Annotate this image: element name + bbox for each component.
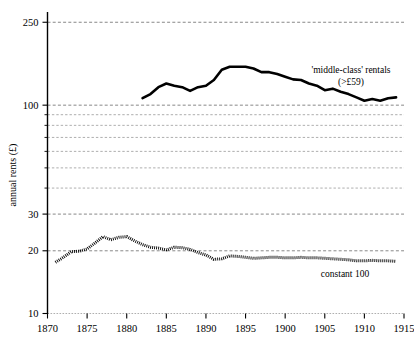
x-tick-label-1875: 1875 xyxy=(77,323,98,334)
x-tick-label-1895: 1895 xyxy=(235,323,256,334)
figure-background xyxy=(0,0,414,341)
x-tick-label-1905: 1905 xyxy=(314,323,335,334)
rents-log-line-chart: 102030100250 187018751880188518901895190… xyxy=(0,0,414,341)
annotation-middle-class-line2: (>£59) xyxy=(338,77,364,88)
x-tick-label-1870: 1870 xyxy=(37,323,58,334)
y-tick-label-250: 250 xyxy=(23,17,39,28)
x-tick-label-1880: 1880 xyxy=(116,323,137,334)
x-tick-label-1885: 1885 xyxy=(156,323,177,334)
y-tick-label-20: 20 xyxy=(28,245,39,256)
y-tick-label-30: 30 xyxy=(28,209,39,220)
annotation-middle-class-line1: 'middle-class' rentals xyxy=(311,65,390,75)
y-tick-label-10: 10 xyxy=(28,308,39,319)
x-tick-label-1890: 1890 xyxy=(195,323,216,334)
x-tick-label-1910: 1910 xyxy=(354,323,375,334)
x-tick-label-1915: 1915 xyxy=(394,323,414,334)
y-axis-title: annual rents (£) xyxy=(7,144,19,207)
y-tick-label-100: 100 xyxy=(23,100,39,111)
annotation-constant-100: constant 100 xyxy=(321,269,370,279)
x-tick-label-1900: 1900 xyxy=(275,323,296,334)
chart-figure: 102030100250 187018751880188518901895190… xyxy=(0,0,414,341)
